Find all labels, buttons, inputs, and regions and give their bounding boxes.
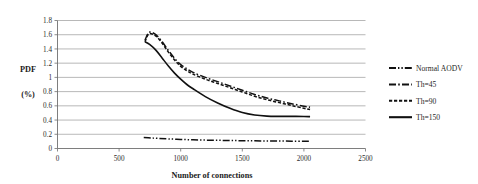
axes-group [55,21,366,152]
y-tick-label: 1.6 [43,31,52,39]
legend-label-3: Th=90 [416,97,437,106]
x-tick-label: 1500 [235,155,250,163]
legend-label-1: Normal AODV [416,64,463,73]
y-tick-label: 0 [48,145,52,153]
y-tick-label: 1.2 [43,60,52,68]
chart-legend: Normal AODVTh=45Th=90Th=150 [389,64,463,122]
x-tick-label: 2500 [358,155,373,163]
x-tick-labels: 05001000150020002500 [56,155,373,163]
y-axis-title-line1: PDF [20,65,36,74]
x-tick-label: 0 [56,155,60,163]
chart-svg: 00.20.40.60.811.21.41.61.8 0500100015002… [0,0,478,184]
y-tick-label: 0.6 [43,102,52,110]
gridlines-group [58,21,366,135]
series-line-th-90 [145,34,310,110]
legend-label-2: Th=45 [416,80,437,89]
x-axis-title: Number of connections [172,171,253,180]
x-tick-label: 1000 [174,155,189,163]
y-tick-label: 0.2 [43,131,52,139]
series-line-normal-aodv [144,137,310,141]
chart-figure: 00.20.40.60.811.21.41.61.8 0500100015002… [0,0,478,184]
y-tick-label: 1.8 [43,17,52,25]
y-tick-label: 0.8 [43,88,52,96]
series-group [144,32,310,141]
y-axis-title-line2: (%) [21,90,35,99]
x-tick-label: 500 [114,155,125,163]
series-line-th-45 [145,32,310,107]
legend-label-4: Th=150 [416,113,440,122]
y-tick-labels: 00.20.40.60.811.21.41.61.8 [43,17,52,153]
x-tick-label: 2000 [297,155,312,163]
y-tick-label: 1.4 [43,46,52,54]
y-tick-label: 1 [48,74,52,82]
y-tick-label: 0.4 [43,117,52,125]
